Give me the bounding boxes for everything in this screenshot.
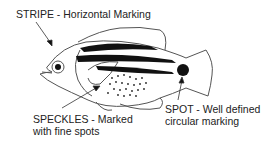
eye-pupil <box>55 64 61 70</box>
speckles-label-line2: with fine spots <box>33 125 133 137</box>
speckles-label-line1: SPECKLES - Marked <box>33 113 133 125</box>
spot-marking <box>177 64 189 76</box>
stripe-label: STRIPE - Horizontal Marking <box>16 8 151 20</box>
speckles-label: SPECKLES - Marked with fine spots <box>33 113 133 137</box>
spot-label-line2: circular marking <box>165 115 260 127</box>
spot-label-line1: SPOT - Well defined <box>165 103 260 115</box>
stripe-label-line1: STRIPE - Horizontal Marking <box>16 8 151 20</box>
stripe-arrow <box>36 22 52 46</box>
spot-label: SPOT - Well defined circular marking <box>165 103 260 127</box>
